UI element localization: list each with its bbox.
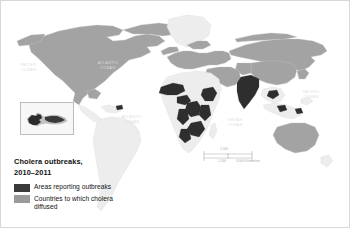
legend-item-diffused: Countries to which cholera diffused xyxy=(14,195,166,212)
legend-title: Cholera outbreaks, 2010–2011 xyxy=(14,157,166,178)
legend-label-outbreak: Areas reporting outbreaks xyxy=(34,183,111,191)
map-legend: Cholera outbreaks, 2010–2011 Areas repor… xyxy=(14,157,166,214)
cholera-outbreak-map-figure: .land{ fill:#ededed; stroke:#dadada; str… xyxy=(0,0,350,228)
scale-label-km-max: 3,000 Kilometers xyxy=(236,159,260,163)
legend-swatch-diffused xyxy=(14,195,30,203)
map-scale-bar: 1,500 1,500 3,000 Kilometers xyxy=(200,148,256,164)
outbreak-hispaniola-main xyxy=(116,105,123,110)
scale-label-miles: 1,500 xyxy=(220,147,228,151)
hispaniola-inset xyxy=(20,102,74,135)
legend-item-outbreak: Areas reporting outbreaks xyxy=(14,183,166,192)
hispaniola-inset-map xyxy=(21,103,74,135)
scale-label-km-mid: 1,500 xyxy=(218,159,226,163)
legend-label-diffused: Countries to which cholera diffused xyxy=(34,195,113,212)
legend-swatch-outbreak xyxy=(14,184,30,192)
